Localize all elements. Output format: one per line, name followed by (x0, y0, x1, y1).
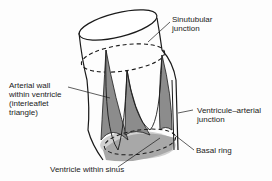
label-line: Sinutubular (172, 15, 212, 24)
top-opening (76, 4, 159, 47)
label-line: Arterial wall (9, 81, 61, 90)
label-line: (interleaflet (9, 99, 61, 108)
label-basal-ring: Basal ring (196, 146, 232, 155)
label-line: triangle) (9, 108, 61, 117)
aortic-root-diagram: Sinutubular junction Arterial wall withi… (0, 0, 272, 181)
label-ventricle-within-sinus: Ventricle within sinus (50, 165, 124, 174)
label-line: within ventricle (9, 90, 61, 99)
label-line: Ventricle within sinus (50, 165, 124, 174)
label-line: Basal ring (196, 146, 232, 155)
interleaflet-triangle-left (101, 50, 128, 140)
label-line: junction (172, 24, 212, 33)
leader-sinutubular (148, 22, 170, 42)
sinutubular-junction-ring (80, 39, 167, 76)
label-ventriculo-arterial-junction: Ventricule–arterial junction (197, 106, 261, 124)
root-left-wall (79, 33, 103, 160)
label-line: junction (197, 115, 261, 124)
label-arterial-wall: Arterial wall within ventricle (interlea… (9, 81, 61, 117)
label-line: Ventricule–arterial (197, 106, 261, 115)
leader-va-junction (178, 110, 193, 113)
label-sinutubular-junction: Sinutubular junction (172, 15, 212, 33)
